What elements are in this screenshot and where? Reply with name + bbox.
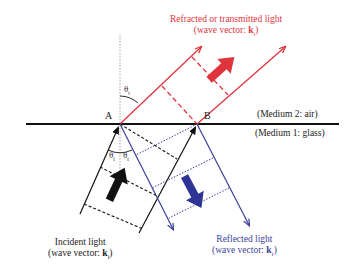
medium-air-label: (Medium 2: air)	[257, 109, 318, 119]
angle-arc-transmitted	[120, 96, 138, 103]
reflected-title: Reflected light	[212, 234, 277, 245]
reflected-vector: (wave vector: kr)	[212, 245, 277, 260]
theta-r-label: θr	[123, 150, 129, 162]
refracted-label: Refracted or transmitted light (wave vec…	[170, 14, 282, 40]
refracted-vector: (wave vector: kt)	[170, 25, 282, 40]
theta-i-label: θi	[109, 150, 115, 162]
reflected-label: Reflected light (wave vector: kr)	[212, 234, 277, 260]
refracted-thick-arrow	[202, 50, 241, 88]
incident-title: Incident light	[48, 237, 112, 248]
reflected-beam	[120, 124, 249, 229]
incident-beam	[80, 124, 195, 233]
point-a-label: A	[105, 110, 112, 121]
incident-vector: (wave vector: ki)	[48, 248, 112, 263]
medium-glass-label: (Medium 1: glass)	[255, 128, 325, 138]
incident-label: Incident light (wave vector: ki)	[48, 237, 112, 263]
point-b-label: B	[204, 110, 211, 121]
refracted-title: Refracted or transmitted light	[170, 14, 282, 25]
theta-t-label: θt	[124, 84, 130, 96]
